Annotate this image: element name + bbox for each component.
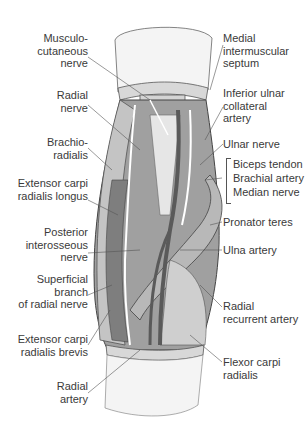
label-ulnar-nerve: Ulnar nerve [223, 138, 280, 151]
label-extensor-carpi-radialis-brevis: Extensor carpi radialis brevis [18, 333, 88, 358]
label-flexor-carpi-radialis: Flexor carpi radialis [223, 356, 280, 381]
label-inferior-ulnar-collateral-artery: Inferior ulnar collateral artery [223, 87, 285, 125]
label-radial-nerve: Radial nerve [57, 89, 88, 114]
label-median-nerve: Median nerve [233, 186, 300, 199]
label-medial-intermuscular-septum: Medial intermuscular septum [223, 32, 289, 70]
label-brachioradialis: Brachio- radialis [47, 136, 88, 161]
label-pronator-teres: Pronator teres [223, 216, 293, 229]
distal-skin [105, 355, 203, 416]
label-biceps-tendon: Biceps tendon [233, 158, 303, 171]
label-radial-artery: Radial artery [57, 380, 88, 405]
label-ulna-artery: Ulna artery [223, 244, 277, 257]
label-posterior-interosseous-nerve: Posterior interosseous nerve [26, 226, 88, 264]
label-extensor-carpi-radialis-longus: Extensor carpi radialis longus [18, 177, 88, 202]
label-radial-recurrent-artery: Radial recurrent artery [223, 300, 298, 325]
label-brachial-artery: Brachial artery [233, 172, 304, 185]
label-bracket [226, 158, 231, 204]
label-superficial-branch-radial-nerve: Superficial branch of radial nerve [18, 273, 88, 311]
label-musculocutaneous-nerve: Musculo- cutaneous nerve [37, 32, 88, 70]
